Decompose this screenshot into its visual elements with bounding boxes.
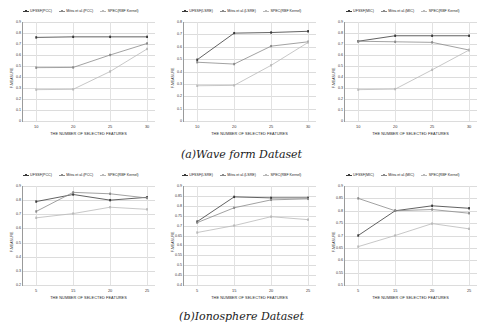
figure-caption-b: (b)Ionosphere Dataset <box>0 310 483 323</box>
legend-label: Mitra et al.(MIC) <box>388 174 414 178</box>
x-axis-tick-label: 20 <box>393 124 397 129</box>
y-axis-tick-label: 0.7 <box>16 42 21 46</box>
series-point-marker <box>72 191 74 193</box>
x-axis-tick-label: 20 <box>269 288 273 293</box>
y-axis-tick-label: 0.9 <box>338 20 343 24</box>
series-line <box>197 42 308 85</box>
legend-label: UFSSF(PCC) <box>30 174 52 178</box>
plot-frame: 0.50.550.60.650.70.750.80.850.95152025 <box>344 186 477 286</box>
legend-marker-icon <box>381 175 387 176</box>
series-point-marker <box>35 200 37 202</box>
legend-item: UFSSF(PCC) <box>23 174 52 178</box>
x-axis-tick-label: 25 <box>306 288 310 293</box>
chart-row-ionosphere: UFSSF(PCC)Mitra et al.(PCC)SPEC(RBF Kern… <box>0 172 483 312</box>
y-axis-tick-label: 0.6 <box>177 243 182 247</box>
y-axis-tick-label: 0.3 <box>177 82 182 86</box>
legend-item: UFSSF(PCC) <box>23 10 52 14</box>
chart-legend: UFSSF(MIC)Mitra et al.(MIC)SPEC(RBF Kern… <box>322 10 483 14</box>
series-point-marker <box>307 41 309 43</box>
y-axis-tick-label: 0.4 <box>338 75 343 79</box>
y-axis-tick-label: 0.2 <box>16 97 21 101</box>
y-axis-tick-label: 0.6 <box>177 45 182 49</box>
plot-area: 00.10.20.30.40.50.60.70.810202530 <box>183 22 316 122</box>
series-point-marker <box>270 31 272 33</box>
y-axis-tick-label: 0.7 <box>177 224 182 228</box>
legend-item: Mitra et al.(MIC) <box>381 174 414 178</box>
series-line <box>358 224 469 247</box>
legend-marker-icon <box>263 11 269 12</box>
series-point-marker <box>357 88 359 90</box>
series-point-marker <box>35 210 37 212</box>
series-point-marker <box>72 36 74 38</box>
legend-item: UFSSF(MIC) <box>346 10 374 14</box>
legend-label: UFSSF(PCC) <box>30 10 52 14</box>
legend-item: Mitra et al.(PCC) <box>59 10 93 14</box>
series-point-marker <box>468 35 470 37</box>
y-axis-tick-label: 0.5 <box>338 283 343 287</box>
y-axis-tick-label: 0.6 <box>338 258 343 262</box>
y-axis-tick-label: 0.8 <box>16 31 21 35</box>
series-point-marker <box>307 198 309 200</box>
series-point-marker <box>431 208 433 210</box>
legend-marker-icon <box>421 11 427 12</box>
y-axis-tick-label: 0.3 <box>16 86 21 90</box>
series-line <box>36 194 147 201</box>
legend-label: Mitra et al.(PCC) <box>66 10 93 14</box>
y-axis-tick-label: 0.7 <box>338 234 343 238</box>
series-point-marker <box>270 216 272 218</box>
series-point-marker <box>394 234 396 236</box>
series-point-marker <box>357 245 359 247</box>
x-axis-tick-label: 20 <box>108 288 112 293</box>
series-line <box>36 207 147 218</box>
legend-marker-icon <box>421 175 427 176</box>
chart-panel: UFSSF(LSRE)Mitra et al.(LSRE)SPEC(RBF Ke… <box>161 8 322 148</box>
x-axis-tick-label: 25 <box>269 124 273 129</box>
y-axis-tick-label: 0.4 <box>16 255 21 259</box>
y-axis-tick-label: 0 <box>341 119 343 123</box>
x-axis-label: THE NUMBER OF SELECTED FEATURES <box>22 132 155 136</box>
y-axis-label: F-MEASURE <box>10 232 14 253</box>
x-axis-tick-label: 25 <box>145 288 149 293</box>
series-point-marker <box>146 36 148 38</box>
chart-panel: UFSSF(LSRE)Mitra et al.(LSRE)SPEC(RBF Ke… <box>161 172 322 312</box>
x-axis-tick-label: 5 <box>196 288 198 293</box>
x-axis-label: THE NUMBER OF SELECTED FEATURES <box>344 132 477 136</box>
plot-frame: 00.10.20.30.40.50.60.70.80.910202530 <box>344 22 477 122</box>
series-point-marker <box>357 197 359 199</box>
series-point-marker <box>109 36 111 38</box>
series-point-marker <box>307 30 309 32</box>
y-axis-tick-label: 0.65 <box>336 246 343 250</box>
legend-label: UFSSF(LSRE) <box>189 10 213 14</box>
series-line <box>197 217 308 233</box>
series-point-marker <box>270 199 272 201</box>
legend-item: SPEC(RBF Kernel) <box>421 174 459 178</box>
series-point-marker <box>394 41 396 43</box>
plot-frame: 0.40.450.50.550.60.650.70.750.80.850.951… <box>183 186 316 286</box>
y-axis-tick-label: 0.9 <box>16 184 21 188</box>
legend-label: SPEC(RBF Kernel) <box>429 174 460 178</box>
series-point-marker <box>357 40 359 42</box>
series-line <box>358 50 469 90</box>
series-point-marker <box>109 54 111 56</box>
legend-marker-icon <box>59 11 65 12</box>
y-axis-tick-label: 0.7 <box>338 42 343 46</box>
x-axis-tick-label: 5 <box>357 288 359 293</box>
legend-marker-icon <box>381 11 387 12</box>
legend-marker-icon <box>59 175 65 176</box>
y-axis-tick-label: 0.5 <box>338 64 343 68</box>
x-axis-tick-label: 25 <box>430 124 434 129</box>
legend-label: SPEC(RBF Kernel) <box>108 10 139 14</box>
series-point-marker <box>196 231 198 233</box>
legend-item: Mitra et al.(LSRE) <box>220 10 256 14</box>
y-gridline <box>345 285 477 286</box>
series-point-marker <box>233 224 235 226</box>
y-axis-tick-label: 0.8 <box>338 31 343 35</box>
legend-label: Mitra et al.(LSRE) <box>227 174 256 178</box>
y-axis-tick-label: 0.4 <box>177 70 182 74</box>
series-point-marker <box>468 212 470 214</box>
plot-frame: 00.10.20.30.40.50.60.70.810202530 <box>183 22 316 122</box>
legend-marker-icon <box>346 175 352 176</box>
y-axis-label: F-MEASURE <box>332 232 336 253</box>
series-point-marker <box>394 35 396 37</box>
y-axis-tick-label: 0.45 <box>175 273 182 277</box>
